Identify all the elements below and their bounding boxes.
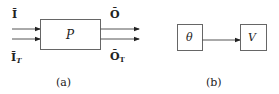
input-label-it: ĪT <box>11 51 22 65</box>
output-label-o: Ō <box>110 7 120 21</box>
v-label: V <box>248 31 257 44</box>
caption-a: (a) <box>56 76 71 89</box>
caption-b: (b) <box>206 76 222 89</box>
output-label-ot: ŌT <box>110 49 126 64</box>
diagram-b: θ V (b) <box>178 25 267 90</box>
diagram-canvas: P Ī ĪT Ō ŌT (a) θ V (b) <box>0 0 279 94</box>
input-label-i: Ī <box>12 8 17 21</box>
theta-label: θ <box>186 31 193 44</box>
process-label: P <box>65 28 75 42</box>
diagram-a: P Ī ĪT Ō ŌT (a) <box>11 7 139 89</box>
